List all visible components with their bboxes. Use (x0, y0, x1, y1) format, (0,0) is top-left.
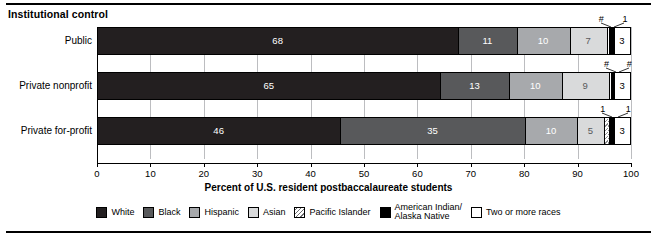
segment-value-label: 3 (619, 126, 624, 136)
segment-value-label: 9 (583, 81, 588, 91)
bar-row: 68111073 (97, 27, 631, 55)
legend-label: American Indian/ Alaska Native (395, 203, 463, 222)
callout-leader-line (614, 111, 654, 127)
bar-segment-hispanic[interactable]: 10 (509, 73, 562, 99)
x-axis-tick-label: 20 (199, 168, 210, 179)
legend-item-hispanic[interactable]: Hispanic (189, 207, 239, 218)
plot-area: 681110736513109346351053 (97, 27, 631, 159)
bar-segment-hispanic[interactable]: 10 (517, 28, 570, 54)
bottom-divider-rule (6, 231, 651, 233)
group-heading: Institutional control (8, 8, 108, 20)
legend-label: Black (158, 208, 180, 217)
legend-item-amind[interactable]: American Indian/ Alaska Native (380, 203, 463, 222)
category-label: Private for-profit (0, 117, 92, 145)
segment-value-label: 10 (546, 126, 557, 136)
x-axis-tick (204, 163, 205, 167)
segment-value-label: 46 (213, 126, 224, 136)
segment-value-label: 10 (538, 36, 549, 46)
x-axis-tick (257, 163, 258, 167)
x-axis-tick-label: 50 (359, 168, 370, 179)
legend-swatch-black (143, 207, 154, 218)
top-divider-rule (6, 3, 651, 5)
x-axis-tick-label: 60 (412, 168, 423, 179)
legend-label: Two or more races (486, 208, 561, 217)
x-axis-tick-label: 90 (572, 168, 583, 179)
segment-value-label: 35 (427, 126, 438, 136)
segment-value-label: 5 (588, 126, 593, 136)
legend-item-two[interactable]: Two or more races (471, 207, 561, 218)
category-label: Public (0, 27, 92, 55)
segment-value-label: 13 (469, 81, 480, 91)
legend-swatch-two (471, 207, 482, 218)
legend-item-asian[interactable]: Asian (248, 207, 286, 218)
segment-value-label: 10 (530, 81, 541, 91)
legend-label: Pacific Islander (309, 208, 370, 217)
x-axis-tick (578, 163, 579, 167)
bar-segment-white[interactable]: 46 (98, 118, 340, 144)
legend-swatch-hispanic (189, 207, 200, 218)
bar-row: 65131093 (97, 72, 631, 100)
bar-segment-hispanic[interactable]: 10 (525, 118, 578, 144)
segment-value-label: 7 (585, 36, 590, 46)
x-axis-tick-label: 30 (252, 168, 263, 179)
x-axis-tick (417, 163, 418, 167)
x-axis-tick (471, 163, 472, 167)
legend-item-black[interactable]: Black (143, 207, 180, 218)
legend-swatch-asian (248, 207, 259, 218)
x-axis-tick-label: 80 (519, 168, 530, 179)
x-axis-title: Percent of U.S. resident postbaccalaurea… (0, 182, 657, 193)
bar-segment-black[interactable]: 13 (440, 73, 508, 99)
bar-segment-white[interactable]: 65 (98, 73, 440, 99)
stacked-bar[interactable]: 68111073 (97, 27, 631, 55)
callout-leader-line (610, 21, 650, 37)
x-axis-tick (524, 163, 525, 167)
x-axis-tick (631, 163, 632, 167)
segment-value-label: 68 (272, 36, 283, 46)
legend-label: Hispanic (204, 208, 239, 217)
legend-label: White (111, 208, 134, 217)
bar-segment-white[interactable]: 68 (98, 28, 458, 54)
bar-row: 46351053 (97, 117, 631, 145)
x-axis-tick (311, 163, 312, 167)
legend-swatch-amind (380, 207, 391, 218)
bar-segment-black[interactable]: 35 (340, 118, 524, 144)
x-axis-tick (97, 163, 98, 167)
legend-label: Asian (263, 208, 286, 217)
legend-item-pacific[interactable]: Pacific Islander (294, 207, 370, 218)
x-axis-tick-label: 40 (305, 168, 316, 179)
segment-value-label: 65 (263, 81, 274, 91)
x-axis-tick-label: 100 (623, 168, 639, 179)
callout-leader-line (615, 66, 655, 82)
bar-segment-black[interactable]: 11 (458, 28, 516, 54)
segment-value-label: 3 (619, 81, 624, 91)
x-axis-tick-label: 70 (466, 168, 477, 179)
x-axis-tick-label: 0 (94, 168, 99, 179)
stacked-bar[interactable]: 65131093 (97, 72, 631, 100)
legend-swatch-pacific (294, 207, 305, 218)
gridline (631, 27, 632, 159)
stacked-bar[interactable]: 46351053 (97, 117, 631, 145)
x-axis-tick (150, 163, 151, 167)
legend: WhiteBlackHispanicAsianPacific IslanderA… (0, 203, 657, 222)
x-axis-tick (364, 163, 365, 167)
legend-item-white[interactable]: White (96, 207, 134, 218)
category-label: Private nonprofit (0, 72, 92, 100)
legend-swatch-white (96, 207, 107, 218)
x-axis-tick-label: 10 (145, 168, 156, 179)
segment-value-label: 3 (619, 36, 624, 46)
segment-value-label: 11 (483, 36, 493, 46)
